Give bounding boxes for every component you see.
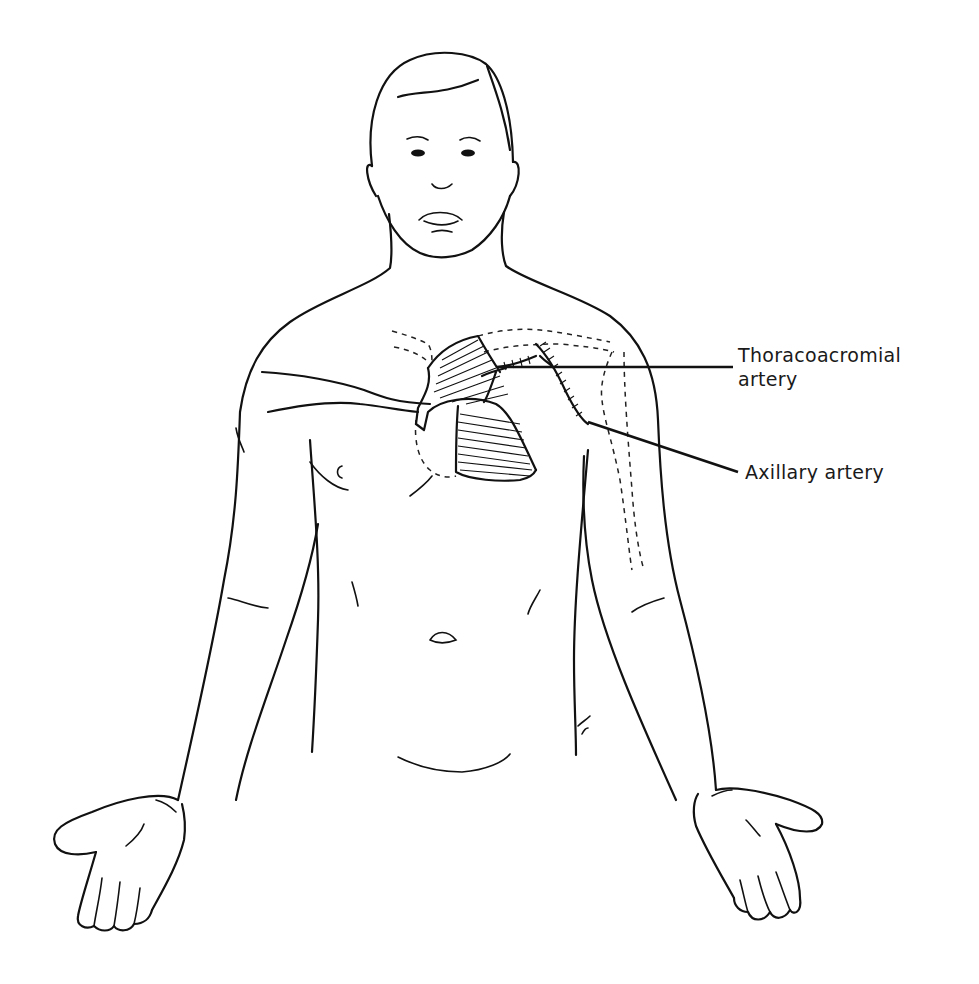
left-arm [54,412,318,931]
torso [310,440,590,772]
label-thoracoacromial-artery: Thoracoacromial artery [738,343,901,391]
dissection-area [262,329,644,570]
leader-lines [497,367,738,472]
body-illustration [0,0,979,984]
anatomical-figure: Thoracoacromial artery Axillary artery [0,0,979,984]
leader-axillary [588,422,738,472]
neck-and-shoulders [240,212,658,420]
right-arm [583,420,822,920]
label-axillary-artery: Axillary artery [745,460,884,484]
